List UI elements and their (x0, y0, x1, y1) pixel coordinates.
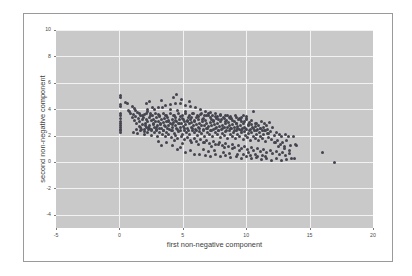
scatter-point (171, 144, 174, 147)
scatter-point (213, 149, 216, 152)
scatter-point (227, 145, 230, 148)
scatter-point (223, 146, 226, 149)
scatter-point (236, 153, 239, 156)
scatter-point (171, 123, 174, 126)
scatter-point (206, 127, 209, 130)
scatter-point (172, 96, 175, 99)
scatter-point (264, 140, 267, 143)
scatter-point (139, 129, 142, 132)
scatter-point (265, 124, 268, 127)
scatter-point (175, 93, 178, 96)
gridline-horizontal (56, 162, 373, 163)
scatter-point (173, 139, 176, 142)
scatter-point (145, 102, 148, 105)
scatter-point (294, 143, 297, 146)
scatter-point (249, 139, 252, 142)
scatter-point (252, 110, 255, 113)
scatter-point (179, 102, 182, 105)
gridline-horizontal (56, 109, 373, 110)
scatter-point (189, 149, 192, 152)
scatter-point (280, 135, 283, 138)
scatter-point (219, 155, 222, 158)
scatter-point (165, 141, 168, 144)
scatter-point (244, 127, 247, 130)
gridline-horizontal (56, 215, 373, 216)
scatter-point (146, 131, 149, 134)
scatter-point (226, 137, 229, 140)
scatter-point (182, 118, 185, 121)
scatter-point (160, 99, 163, 102)
scatter-point (270, 159, 273, 162)
scatter-point (250, 119, 253, 122)
scatter-point (192, 112, 195, 115)
scatter-point (196, 134, 199, 137)
scatter-point (160, 144, 163, 147)
scatter-point (198, 153, 201, 156)
scatter-point (257, 139, 260, 142)
scatter-point (184, 151, 187, 154)
scatter-point (219, 136, 222, 139)
scatter-point (252, 149, 255, 152)
scatter-point (254, 122, 257, 125)
scatter-point (148, 100, 151, 103)
scatter-point (285, 158, 288, 161)
scatter-point (146, 120, 149, 123)
scatter-point (157, 140, 160, 143)
scatter-point (288, 152, 291, 155)
scatter-point (222, 151, 225, 154)
scatter-point (235, 122, 238, 125)
scatter-point (178, 122, 181, 125)
scatter-point (242, 138, 245, 141)
scatter-point (242, 114, 245, 117)
scatter-point (207, 112, 210, 115)
scatter-point (176, 137, 179, 140)
scatter-point (258, 131, 261, 134)
scatter-point (210, 129, 213, 132)
scatter-point (249, 154, 252, 157)
scatter-point (156, 135, 159, 138)
scatter-point (292, 135, 295, 138)
scatter-point (190, 141, 193, 144)
scatter-point (273, 134, 276, 137)
scatter-point (167, 120, 170, 123)
scatter-point (321, 151, 324, 154)
scatter-point (162, 112, 165, 115)
gridline-vertical (310, 30, 311, 228)
scatter-point (210, 145, 213, 148)
scatter-point (284, 154, 287, 157)
scatter-point (271, 152, 274, 155)
scatter-point (159, 122, 162, 125)
scatter-point (238, 117, 241, 120)
gridline-horizontal (56, 188, 373, 189)
scatter-point (184, 104, 187, 107)
scatter-point (240, 157, 243, 160)
scatter-point (288, 149, 291, 152)
scatter-point (179, 146, 182, 149)
scatter-point (229, 156, 232, 159)
scatter-point (259, 150, 262, 153)
scatter-point (250, 157, 253, 160)
scatter-point (175, 127, 178, 130)
scatter-point (119, 105, 122, 108)
y-axis-label: second non-negative component (38, 30, 47, 228)
scatter-point (267, 132, 270, 135)
scatter-point (229, 127, 232, 130)
scatter-point (215, 117, 218, 120)
scatter-point (193, 153, 196, 156)
scatter-point (278, 153, 281, 156)
scatter-point (275, 157, 278, 160)
scatter-point (283, 147, 286, 150)
scatter-point (132, 131, 135, 134)
scatter-point (200, 112, 203, 115)
scatter-point (217, 143, 220, 146)
scatter-point (199, 108, 202, 111)
scatter-point (136, 132, 139, 135)
scatter-point (293, 157, 296, 160)
scatter-point (169, 108, 172, 111)
scatter-point (201, 118, 204, 121)
gridline-horizontal (56, 136, 373, 137)
scatter-point (154, 112, 157, 115)
scatter-point (183, 138, 186, 141)
gridline-horizontal (56, 83, 373, 84)
scatter-point (145, 112, 148, 115)
